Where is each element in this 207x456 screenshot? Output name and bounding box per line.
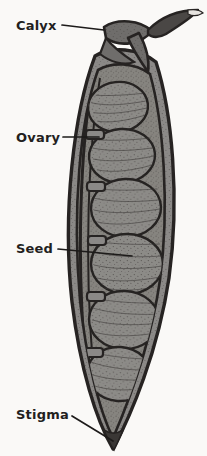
label-seed: Seed [16,241,53,256]
leader-calyx [62,25,104,30]
label-ovary: Ovary [16,130,61,145]
pod-outline [68,10,203,450]
calyx-tip-highlight [188,10,203,16]
label-calyx: Calyx [16,18,57,33]
funiculus [87,182,105,191]
label-stigma: Stigma [16,407,69,422]
funiculus [87,292,105,301]
funiculus [88,236,106,245]
seed-pod-diagram: Calyx Ovary Seed Stigma [0,0,207,456]
